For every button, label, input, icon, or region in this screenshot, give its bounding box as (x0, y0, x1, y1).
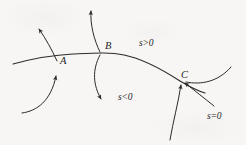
main-curve (13, 53, 205, 93)
point-label-b: B (105, 41, 111, 52)
arrow-into-C-from-below (170, 85, 181, 140)
arrow-into-C-from-lower-right (185, 83, 214, 106)
arrow-into-A-from-below (22, 76, 56, 113)
arrow-down-from-B (94, 55, 101, 99)
arrow-up-at-B (91, 11, 100, 52)
region-label-s-positive: s>0 (139, 39, 153, 49)
region-label-s-negative: s<0 (118, 93, 132, 103)
figure-canvas: A B C s>0 s<0 s=0 (0, 0, 246, 145)
region-label-s-zero: s=0 (207, 112, 221, 122)
right-branch-curve (186, 67, 231, 83)
point-label-a: A (60, 56, 66, 67)
point-label-c: C (181, 70, 188, 81)
curve-diagram-svg (0, 0, 246, 145)
